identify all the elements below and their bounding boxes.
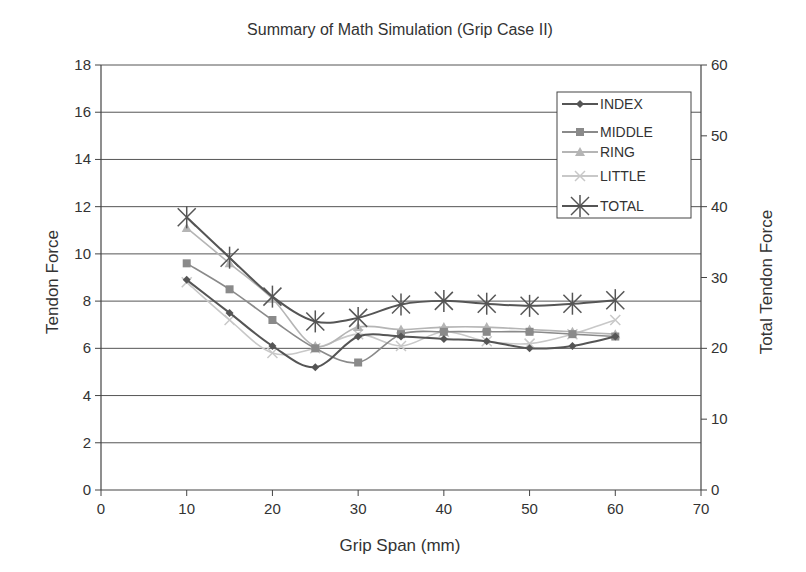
y2-tick-label: 10 bbox=[711, 410, 728, 427]
y-tick-label: 16 bbox=[74, 103, 91, 120]
legend: INDEXMIDDLERINGLITTLETOTAL bbox=[557, 92, 691, 218]
y-tick-label: 8 bbox=[83, 292, 91, 309]
legend-label: INDEX bbox=[600, 96, 643, 112]
x-tick-label: 70 bbox=[693, 500, 710, 517]
y-tick-label: 10 bbox=[74, 245, 91, 262]
x-axis-label: Grip Span (mm) bbox=[340, 536, 461, 555]
y-tick-label: 2 bbox=[83, 434, 91, 451]
y2-tick-label: 0 bbox=[711, 481, 719, 498]
y-tick-label: 14 bbox=[74, 150, 91, 167]
y2-tick-label: 50 bbox=[711, 127, 728, 144]
left-axis-ticks: 024681012141618 bbox=[74, 56, 101, 498]
right-axis-ticks: 0102030405060 bbox=[701, 56, 728, 498]
x-tick-label: 10 bbox=[178, 500, 195, 517]
series-total bbox=[178, 206, 625, 332]
x-tick-label: 20 bbox=[264, 500, 281, 517]
x-axis-ticks: 010203040506070 bbox=[97, 490, 710, 517]
x-tick-label: 40 bbox=[436, 500, 453, 517]
y-tick-label: 6 bbox=[83, 339, 91, 356]
y2-tick-label: 40 bbox=[711, 198, 728, 215]
y2-tick-label: 20 bbox=[711, 339, 728, 356]
y-tick-label: 18 bbox=[74, 56, 91, 73]
y2-axis-label: Total Tendon Force bbox=[757, 210, 776, 354]
legend-label: LITTLE bbox=[600, 168, 646, 184]
legend-label: RING bbox=[600, 144, 635, 160]
series-little bbox=[182, 277, 621, 358]
y-tick-label: 0 bbox=[83, 481, 91, 498]
legend-label: MIDDLE bbox=[600, 124, 653, 140]
y2-tick-label: 30 bbox=[711, 269, 728, 286]
chart: Summary of Math Simulation (Grip Case II… bbox=[0, 0, 806, 572]
legend-label: TOTAL bbox=[600, 198, 644, 214]
x-tick-label: 0 bbox=[97, 500, 105, 517]
y-tick-label: 12 bbox=[74, 198, 91, 215]
x-tick-label: 50 bbox=[521, 500, 538, 517]
data-series bbox=[178, 206, 625, 371]
chart-title: Summary of Math Simulation (Grip Case II… bbox=[247, 21, 553, 38]
y-tick-label: 4 bbox=[83, 387, 91, 404]
x-tick-label: 60 bbox=[607, 500, 624, 517]
series-index bbox=[183, 276, 620, 371]
y2-tick-label: 60 bbox=[711, 56, 728, 73]
x-tick-label: 30 bbox=[350, 500, 367, 517]
y-axis-label: Tendon Force bbox=[43, 230, 62, 334]
